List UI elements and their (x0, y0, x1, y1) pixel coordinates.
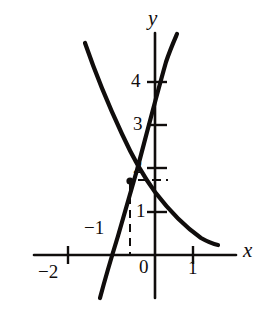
x-tick-label-1: 1 (188, 258, 198, 277)
y-tick-label-4: 4 (131, 71, 141, 90)
graph-figure: y x 4 3 2 1 0 1 −1 −2 (0, 0, 273, 310)
origin-label: 0 (139, 257, 149, 276)
intersection-point-marker (126, 177, 133, 184)
x-axis-label: x (243, 240, 252, 261)
x-tick-label-minus-2: −2 (38, 262, 58, 281)
x-annotation-label-minus-1: −1 (84, 218, 104, 237)
y-axis-label: y (148, 8, 157, 29)
y-tick-label-1: 1 (136, 201, 146, 220)
curve-decreasing-exponential (85, 43, 218, 245)
y-tick-label-2: 2 (133, 157, 143, 176)
y-tick-label-3: 3 (133, 114, 143, 133)
